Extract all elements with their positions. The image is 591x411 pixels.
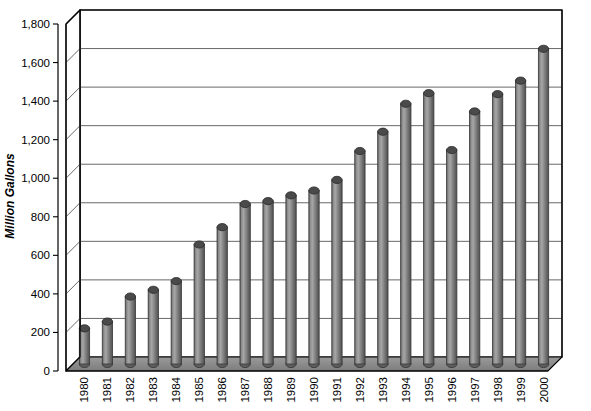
bar-top-ellipse [538, 45, 548, 52]
bar-top-ellipse [171, 278, 181, 285]
bar-top-ellipse [148, 286, 158, 293]
x-axis-label-1995: 1995 [423, 377, 435, 403]
x-axis-label-2000: 2000 [538, 377, 550, 403]
bar-1984 [171, 278, 181, 368]
x-axis-label-1984: 1984 [170, 376, 182, 402]
bar-body [492, 94, 502, 364]
bar-1991 [332, 176, 342, 367]
x-axis-label-1985: 1985 [193, 377, 205, 403]
left-wall [66, 10, 80, 371]
bar-body [538, 49, 548, 364]
bar-1993 [378, 128, 388, 367]
bar-top-ellipse [424, 90, 434, 97]
chart-container: 1,8001,6001,4001,2001,0008006004002000 1… [0, 0, 591, 411]
bar-1987 [240, 200, 250, 367]
y-axis-ticks [53, 24, 58, 371]
x-axis-label-1988: 1988 [262, 377, 274, 403]
x-axis-label-1993: 1993 [377, 377, 389, 403]
bar-1986 [217, 224, 227, 368]
x-axis-label-1998: 1998 [492, 377, 504, 403]
bar-top-ellipse [378, 128, 388, 135]
bar-top-ellipse [470, 108, 480, 115]
x-axis-label-1989: 1989 [285, 377, 297, 403]
bar-1988 [263, 198, 273, 368]
bar-top-ellipse [263, 198, 273, 205]
x-axis-label-1982: 1982 [124, 377, 136, 403]
bar-1997 [470, 108, 480, 368]
bar-top-ellipse [355, 147, 365, 154]
y-tick-label: 1,800 [21, 18, 50, 30]
bar-1990 [309, 187, 319, 368]
bar-top-ellipse [102, 318, 112, 325]
bar-1999 [515, 77, 525, 368]
bar-body [263, 201, 273, 364]
bar-body [332, 180, 342, 364]
bar-1982 [125, 293, 135, 368]
bar-body [355, 151, 365, 364]
bar-1980 [79, 325, 89, 368]
y-tick-label: 800 [31, 211, 50, 223]
x-axis-labels: 1980198119821983198419851986198719881989… [78, 376, 549, 402]
bar-top-ellipse [332, 176, 342, 183]
x-axis-label-1990: 1990 [308, 377, 320, 403]
bar-body [515, 81, 525, 364]
bar-1989 [286, 192, 296, 368]
bar-body [378, 132, 388, 364]
y-tick-label: 0 [44, 365, 50, 377]
y-axis-labels: 1,8001,6001,4001,2001,0008006004002000 [21, 18, 50, 377]
bar-chart: 1,8001,6001,4001,2001,0008006004002000 1… [0, 0, 591, 411]
y-tick-label: 1,200 [21, 134, 50, 146]
y-tick-label: 200 [31, 326, 50, 338]
y-tick-label: 1,600 [21, 57, 50, 69]
bar-top-ellipse [125, 293, 135, 300]
y-tick-label: 1,400 [21, 95, 50, 107]
x-axis-label-1994: 1994 [400, 376, 412, 402]
y-tick-label: 400 [31, 288, 50, 300]
x-axis-label-1999: 1999 [515, 377, 527, 403]
x-axis-label-1987: 1987 [239, 377, 251, 403]
bar-body [217, 227, 227, 364]
bar-1994 [401, 100, 411, 367]
bar-body [79, 328, 89, 364]
bar-1992 [355, 147, 365, 367]
bar-top-ellipse [492, 91, 502, 98]
bar-body [125, 297, 135, 364]
bar-body [240, 204, 250, 364]
x-axis-label-1997: 1997 [469, 377, 481, 403]
bar-1981 [102, 318, 112, 368]
bar-2000 [538, 45, 548, 367]
x-axis-label-1991: 1991 [331, 377, 343, 403]
bar-1995 [424, 90, 434, 368]
bar-body [194, 244, 204, 364]
bar-top-ellipse [401, 100, 411, 107]
x-axis-label-1981: 1981 [101, 377, 113, 403]
bar-body [171, 281, 181, 364]
x-axis-label-1992: 1992 [354, 377, 366, 403]
bar-body [424, 93, 434, 364]
bar-1985 [194, 241, 204, 368]
bar-body [102, 322, 112, 364]
y-tick-label: 1,000 [21, 172, 50, 184]
bar-body [148, 290, 158, 364]
bar-body [401, 104, 411, 364]
x-axis-label-1986: 1986 [216, 377, 228, 403]
y-axis-title-text: Million Gallons [3, 153, 17, 239]
x-axis-label-1983: 1983 [147, 377, 159, 403]
bar-top-ellipse [240, 200, 250, 207]
bar-top-ellipse [515, 77, 525, 84]
bar-top-ellipse [447, 146, 457, 153]
bar-1983 [148, 286, 158, 367]
bar-body [286, 195, 296, 364]
bar-1996 [447, 146, 457, 367]
y-axis-title: Million Gallons [3, 153, 17, 239]
bar-1998 [492, 91, 502, 368]
bar-top-ellipse [194, 241, 204, 248]
bar-body [309, 191, 319, 365]
bar-top-ellipse [309, 187, 319, 194]
bar-body [447, 150, 457, 364]
x-axis-label-1996: 1996 [446, 377, 458, 403]
bar-top-ellipse [217, 224, 227, 231]
x-axis-label-1980: 1980 [78, 377, 90, 403]
y-tick-label: 600 [31, 249, 50, 261]
bar-top-ellipse [79, 325, 89, 332]
